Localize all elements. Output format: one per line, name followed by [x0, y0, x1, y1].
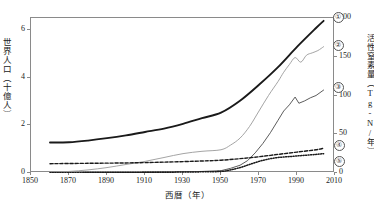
- x-axis-tick-label: 1890: [86, 176, 126, 185]
- x-axis-tick-label: 1910: [124, 176, 164, 185]
- series-line-3: [50, 90, 324, 173]
- series-line-1: [50, 21, 324, 143]
- legend-marker-4[interactable]: ④: [334, 140, 345, 151]
- y-axis-left-tick-label: 4: [3, 72, 25, 81]
- x-axis-tick-label: 1870: [48, 176, 88, 185]
- chart-figure: 世界人口（十億人） 活性窒素量（Tg-N/年） 西暦（年） 0246 05010…: [0, 0, 374, 207]
- x-axis-tick-label: 1930: [162, 176, 202, 185]
- x-axis-tick-label: 1850: [10, 176, 50, 185]
- x-axis-tick-label: 1950: [200, 176, 240, 185]
- series-lines: [31, 18, 335, 173]
- y-axis-left-tick-label: 2: [3, 119, 25, 128]
- plot-area: [30, 17, 334, 172]
- series-line-4: [50, 148, 324, 164]
- legend-marker-5[interactable]: ⑤: [334, 156, 345, 167]
- x-axis-tick-label: 2010: [314, 176, 354, 185]
- x-axis-title: 西暦（年）: [0, 188, 374, 200]
- y-axis-left-title: 世界人口（十億人）: [1, 38, 10, 158]
- x-axis-tick-label: 1990: [276, 176, 316, 185]
- y-axis-left-tick-label: 0: [3, 167, 25, 176]
- x-axis-tick-label: 1970: [238, 176, 278, 185]
- y-axis-right-title: 活性窒素量（Tg-N/年）: [366, 34, 374, 164]
- legend-marker-1[interactable]: ①: [333, 12, 344, 23]
- legend-marker-3[interactable]: ③: [333, 82, 344, 93]
- y-axis-left-tick-label: 6: [3, 24, 25, 33]
- y-axis-right-tick-label: 0: [339, 167, 363, 176]
- legend-marker-2[interactable]: ②: [333, 40, 344, 51]
- y-axis-right-tick-label: 50: [339, 128, 363, 137]
- y-axis-right-tick-label: 150: [339, 51, 363, 60]
